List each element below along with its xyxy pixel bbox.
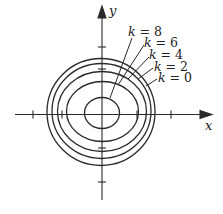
leader-line-k2: [138, 68, 153, 79]
y-axis-arrow-icon: [98, 6, 106, 18]
level-curves: [47, 59, 155, 166]
level-curves-diagram: y x k=8 k=6 k=4 k=2 k=0: [0, 0, 223, 214]
leader-line-k0: [146, 79, 157, 86]
equals-sign: =: [170, 70, 180, 85]
y-axis: [98, 6, 106, 200]
x-axis-label: x: [205, 118, 213, 133]
curve-label-k0: k=0: [158, 70, 192, 85]
y-axis-label: y: [108, 3, 117, 18]
x-axis: [15, 111, 212, 119]
